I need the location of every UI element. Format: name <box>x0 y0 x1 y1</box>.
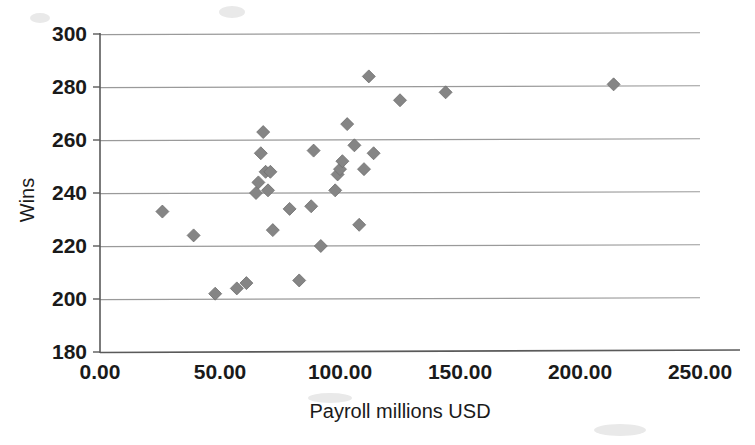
data-point <box>362 70 375 83</box>
gridline-220 <box>100 245 700 247</box>
data-point <box>358 163 371 176</box>
y-tick-label-300: 300 <box>52 22 87 45</box>
data-point <box>367 147 380 160</box>
data-point <box>254 147 267 160</box>
gridline-240 <box>100 192 700 194</box>
x-tick-label-100: 100.00 <box>308 360 372 383</box>
x-tick-label-200: 200.00 <box>548 360 612 383</box>
y-tick-label-260: 260 <box>52 128 87 151</box>
data-point <box>156 205 169 218</box>
x-tick-label-250: 250.00 <box>668 360 732 383</box>
y-tick-label-240: 240 <box>52 181 87 204</box>
data-point <box>266 224 279 237</box>
gridline-260 <box>100 139 700 141</box>
data-point <box>209 287 222 300</box>
x-axis-line <box>100 350 740 353</box>
data-point <box>607 78 620 91</box>
data-point <box>439 86 452 99</box>
y-tick-label-220: 220 <box>52 234 87 257</box>
gridline-300 <box>100 33 700 35</box>
gridlines <box>100 33 700 300</box>
data-point <box>348 139 361 152</box>
data-point <box>394 94 407 107</box>
data-point <box>305 200 318 213</box>
chart-canvas: 300280260240220200180 0.0050.00100.00150… <box>0 0 755 445</box>
data-point <box>307 144 320 157</box>
x-tick-label-50: 50.00 <box>194 360 247 383</box>
data-point <box>353 218 366 231</box>
data-point <box>283 202 296 215</box>
data-point <box>252 176 265 189</box>
y-axis-ticks: 300280260240220200180 <box>52 22 100 363</box>
x-tick-label-0: 0.00 <box>80 360 121 383</box>
y-axis-title: Wins <box>16 178 38 222</box>
data-point <box>262 184 275 197</box>
y-tick-label-280: 280 <box>52 75 87 98</box>
x-tick-label-150: 150.00 <box>428 360 492 383</box>
data-point <box>314 240 327 253</box>
data-point <box>341 118 354 131</box>
data-point <box>250 187 263 200</box>
y-tick-label-200: 200 <box>52 287 87 310</box>
gridline-200 <box>100 298 700 300</box>
data-point <box>187 229 200 242</box>
data-point <box>293 274 306 287</box>
data-point <box>257 126 270 139</box>
scatter-chart: 300280260240220200180 0.0050.00100.00150… <box>0 0 755 445</box>
data-points <box>156 70 620 300</box>
x-axis-ticks: 0.0050.00100.00150.00200.00250.00 <box>80 360 733 383</box>
data-point <box>329 184 342 197</box>
x-axis-title: Payroll millions USD <box>309 400 490 422</box>
